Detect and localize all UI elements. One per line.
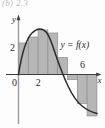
riemann-sum-figure: (b) 2.3 (0, 0, 105, 128)
x-tick-label-2: 2 (36, 77, 41, 88)
plot-canvas: 2 0 2 6 y x y = f(x) (0, 0, 105, 128)
curve-label: y = f(x) (60, 40, 90, 51)
x-axis-label: x (97, 75, 102, 85)
x-tick-label-0: 0 (12, 77, 17, 88)
x-tick-label-6: 6 (80, 59, 85, 70)
y-axis-label: y (11, 14, 16, 24)
y-tick-label-2: 2 (10, 42, 15, 53)
riemann-rectangles-negative (68, 75, 97, 117)
